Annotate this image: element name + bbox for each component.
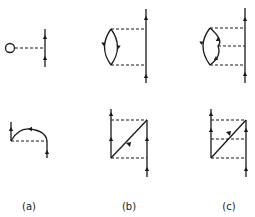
label-a: (a)	[22, 201, 36, 212]
label-b: (b)	[122, 201, 136, 212]
diagram-b-top	[101, 9, 148, 83]
diagram-a-top	[6, 29, 48, 67]
diagram-canvas	[0, 0, 255, 217]
diagram-c-top	[199, 8, 247, 83]
diagram-a-bottom	[9, 122, 49, 158]
diagram-c-bottom	[209, 109, 248, 177]
label-c: (c)	[222, 201, 235, 212]
diagram-b-bottom	[109, 109, 149, 177]
